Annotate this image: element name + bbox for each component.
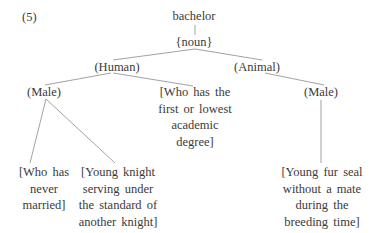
- node-human: (Human): [94, 60, 139, 75]
- sense-academic-degree: [Who has the first or lowest academic de…: [158, 84, 231, 150]
- sense-young-fur-seal: [Young fur seal without a mate during th…: [281, 164, 362, 230]
- sense-line: without a mate: [281, 181, 362, 198]
- sense-young-knight: [Young knight serving under the standard…: [79, 164, 158, 230]
- node-human-male: (Male): [27, 85, 61, 100]
- sense-line: another knight]: [79, 214, 158, 231]
- sense-line: married]: [19, 197, 69, 214]
- edge-noun-animal: [195, 49, 262, 60]
- edge-male-young-knight: [46, 99, 115, 163]
- example-number: (5): [22, 10, 37, 25]
- sense-line: [Young fur seal: [281, 164, 362, 181]
- sense-line: breeding time]: [281, 214, 362, 231]
- node-animal-male: (Male): [304, 85, 338, 100]
- edge-noun-human: [113, 49, 195, 60]
- sense-line: [Who has the: [158, 84, 231, 101]
- node-root: bachelor: [172, 9, 215, 24]
- node-animal: (Animal): [234, 60, 280, 75]
- sense-line: degree]: [158, 134, 231, 151]
- sense-line: never: [19, 181, 69, 198]
- sense-line: the standard of: [79, 197, 158, 214]
- sense-line: serving under: [79, 181, 158, 198]
- sense-line: academic: [158, 117, 231, 134]
- sense-line: [Who has: [19, 164, 69, 181]
- sense-line: during the: [281, 197, 362, 214]
- node-pos: {noun}: [176, 35, 213, 50]
- sense-never-married: [Who has never married]: [19, 164, 69, 214]
- edge-male-never-married: [30, 99, 46, 163]
- sense-line: [Young knight: [79, 164, 158, 181]
- sense-line: first or lowest: [158, 101, 231, 118]
